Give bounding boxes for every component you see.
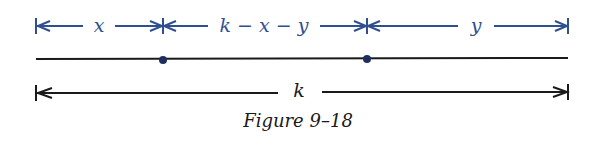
label-k: k <box>293 79 305 101</box>
figure-caption: Figure 9–18 <box>242 110 353 131</box>
main-line <box>36 58 568 59</box>
point-2 <box>363 55 371 63</box>
label-y: y <box>470 14 482 36</box>
label-k-minus-x-minus-y: k − x − y <box>220 14 309 36</box>
label-x: x <box>94 14 105 36</box>
point-1 <box>159 56 167 64</box>
figure-9-18-diagram: x k − x − y y k Figure 9–18 <box>0 0 598 145</box>
